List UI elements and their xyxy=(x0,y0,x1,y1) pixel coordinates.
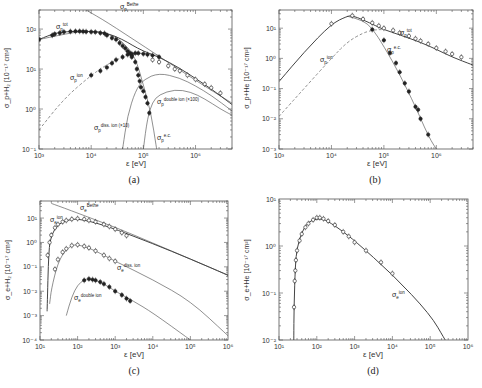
data-point xyxy=(125,297,128,300)
data-point xyxy=(292,305,295,308)
data-point xyxy=(322,217,325,220)
series-line xyxy=(279,16,473,82)
data-point xyxy=(333,223,336,226)
data-point xyxy=(407,34,410,37)
data-point xyxy=(135,67,138,70)
data-point xyxy=(298,239,301,242)
data-point xyxy=(99,31,102,34)
chart-c: 10¹10²10³10⁴10⁵10⁶10⁻⁴10⁻³10⁻²10⁻¹10⁰10¹… xyxy=(22,201,233,350)
data-point xyxy=(46,253,49,256)
data-point xyxy=(427,42,430,45)
data-point xyxy=(48,241,51,244)
data-point xyxy=(427,133,430,136)
y-tick-label: 10⁻¹ xyxy=(262,85,277,92)
data-point xyxy=(99,280,102,283)
data-point xyxy=(311,218,314,221)
data-point xyxy=(108,225,111,228)
y-tick-label: 10⁻² xyxy=(262,115,277,122)
data-point xyxy=(416,108,419,111)
data-point xyxy=(351,14,354,17)
data-point xyxy=(178,69,181,72)
data-point xyxy=(65,247,68,250)
data-point xyxy=(65,219,68,222)
data-point xyxy=(120,231,123,234)
y-tick-label: 10⁻² xyxy=(262,337,277,344)
data-point xyxy=(194,78,197,81)
data-point xyxy=(121,55,124,58)
series-line xyxy=(279,30,384,117)
x-tick-label: 10² xyxy=(73,343,84,350)
x-tick-label: 10³ xyxy=(350,343,361,350)
y-tick-label: 10⁻² xyxy=(23,288,38,295)
data-point xyxy=(110,36,113,39)
y-tick-label: 10⁰ xyxy=(25,106,36,113)
data-point xyxy=(69,30,72,33)
data-point xyxy=(102,282,105,285)
series-line xyxy=(347,16,436,149)
y-tick-label: 10⁻¹ xyxy=(262,290,277,297)
data-point xyxy=(108,285,111,288)
data-point xyxy=(87,219,90,222)
chart-b: 10³10⁴10⁵10⁶10⁻³10⁻²10⁻¹10⁰10¹σptotσpe.c… xyxy=(262,10,473,159)
data-point xyxy=(50,233,53,236)
data-point xyxy=(70,244,73,247)
series-line xyxy=(123,74,232,149)
data-point xyxy=(342,230,345,233)
y-tick-label: 10¹ xyxy=(266,196,277,203)
data-point xyxy=(419,117,422,120)
data-point xyxy=(56,258,59,261)
x-tick-label: 10¹ xyxy=(35,343,46,350)
data-point xyxy=(210,86,213,89)
plots-canvas: 10³10⁴10⁵10⁶10⁻¹10⁰10¹10²σpBetheσptotσpi… xyxy=(0,0,482,388)
curve-annotation: σpdiss. ion (×10) xyxy=(94,123,130,133)
data-point xyxy=(83,217,86,220)
x-tick-label: 10⁵ xyxy=(379,152,390,159)
data-point xyxy=(419,39,422,42)
curve-annotation: σptot xyxy=(56,22,69,32)
data-point xyxy=(379,261,382,264)
data-point xyxy=(84,30,87,33)
data-point xyxy=(444,50,447,53)
y-tick-label: 10⁻¹ xyxy=(23,263,38,270)
data-point xyxy=(37,38,40,41)
data-point xyxy=(114,260,117,263)
data-point xyxy=(76,243,79,246)
curve-annotation: σeBethe xyxy=(80,203,99,213)
data-point xyxy=(138,79,141,82)
data-point xyxy=(173,67,176,70)
data-point xyxy=(167,64,170,67)
data-point xyxy=(126,53,129,56)
curve-annotation: σpion xyxy=(320,55,333,65)
data-point xyxy=(83,245,86,248)
data-point xyxy=(137,51,140,54)
data-point xyxy=(330,22,333,25)
data-point xyxy=(295,249,298,252)
series-line xyxy=(66,279,190,340)
data-point xyxy=(102,223,105,226)
data-point xyxy=(118,41,121,44)
series-line xyxy=(294,219,445,340)
data-point xyxy=(114,227,117,230)
x-tick-label: 10⁴ xyxy=(147,343,158,350)
data-point xyxy=(134,60,137,63)
x-tick-label: 10⁴ xyxy=(326,152,337,159)
data-point xyxy=(114,38,117,41)
data-point xyxy=(78,30,81,33)
data-point xyxy=(61,220,64,223)
y-tick-label: 10⁰ xyxy=(265,55,276,62)
y-tick-label: 10⁰ xyxy=(26,239,37,246)
data-point xyxy=(94,30,97,33)
y-tick-label: 10⁻⁴ xyxy=(22,337,37,344)
data-point xyxy=(353,241,356,244)
data-point xyxy=(435,46,438,49)
data-point xyxy=(110,62,113,65)
x-tick-label: 10⁶ xyxy=(190,152,201,159)
curve-annotation: σeion xyxy=(392,290,405,300)
data-point xyxy=(144,95,147,98)
chart-d: 10¹10²10³10⁴10⁵10⁶10⁻²10⁻¹10⁰10¹σeion xyxy=(262,196,474,351)
data-point xyxy=(361,17,364,20)
data-point xyxy=(137,74,140,77)
data-point xyxy=(94,249,97,252)
data-point xyxy=(377,24,380,27)
data-point xyxy=(124,47,127,50)
